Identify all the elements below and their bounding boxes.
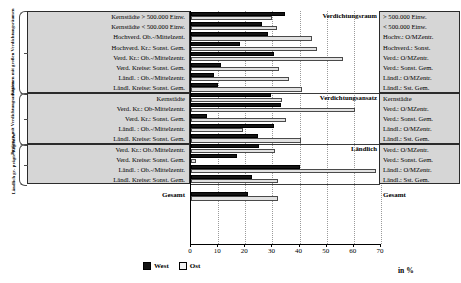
category-label: Verd. Kr.: Ob./Mittelzentr. [28,145,189,155]
bar-ost [191,128,243,132]
bar-row [191,93,381,103]
axis-unit-label: in % [398,266,414,275]
bar-row [191,52,381,62]
bar-ost [191,138,301,142]
bar-west [191,63,221,67]
category-label-short: Ländl.: Sst. Gem. [380,175,459,185]
category-label-group-left: Kernstädte > 500.000 Einw.Kernstädte < 5… [27,11,190,93]
category-label-short: Verd.: O/MZentr. [380,145,459,155]
category-label: Verd. Kr.: Ob.-/Mittelzentr. [28,53,189,63]
bar-row [191,154,381,164]
total-label-right: Gesamt [379,191,460,199]
plot-area: VerdichtungsraumVerdichtungsansatzLändli… [190,11,380,244]
category-label-short: Ländl.: O/MZentr. [380,73,459,83]
bar-row [191,103,381,113]
bar-ost [191,36,312,40]
bar-ost [191,16,272,20]
category-label: Ländl. Kreise: Sonst. Gem. [28,175,189,185]
bar-ost [191,159,196,163]
bar-row [191,11,381,21]
bar-west [191,144,259,148]
bar-west [191,73,214,77]
category-label-short: Verd.: O/MZentr. [380,53,459,63]
legend-swatch-ost [179,262,187,270]
bar-west [191,83,218,87]
bar-ost-total [191,196,278,200]
bar-ost [191,108,355,112]
category-label-short: Verd.: O/MZentr. [380,104,459,114]
category-label: Verd. Kreise: Sonst. Gem. [28,155,189,165]
category-label: Verd. Kr.: Sonst. Gem. [28,114,189,124]
category-label: Hochverd. Kr.: Sonst. Gem. [28,43,189,53]
bar-ost [191,87,302,91]
bar-west [191,52,274,56]
category-label: Kernstädte < 500.000 Einw. [28,22,189,32]
bar-row [191,123,381,133]
category-label: Ländl. : Ob.-/Mittelzentr. [28,73,189,83]
category-label-group-right: KernstädteVerd.: O/MZentr.Verd.: Sonst. … [379,93,460,144]
category-label-short: Verd.: Sonst. Gem. [380,114,459,124]
category-label: Verd. Kr.: Ob-Mittelzentr. [28,104,189,114]
x-axis-tick-label: 30 [259,247,283,255]
bar-row [191,133,381,143]
x-axis-tick-label: 70 [368,247,392,255]
category-label: Ländl. : Ob.-/Mittelzentr. [28,165,189,175]
bar-ost [191,57,343,61]
category-label: Kernstädte > 500.000 Einw. [28,12,189,22]
category-label-group-left: Verd. Kr.: Ob./Mittelzentr.Verd. Kreise:… [27,144,190,185]
bar-ost [191,118,286,122]
total-label-left: Gesamt [27,191,190,199]
bar-west [191,103,281,107]
bar-ost [191,179,278,183]
bar-west [191,12,285,16]
section-divider [191,184,380,185]
x-axis-tick-label: 10 [205,247,229,255]
category-label-short: Hochv.: O/MZentr. [380,32,459,42]
bar-row [191,174,381,184]
category-label-short: Verd.: Sonst. Gem. [380,63,459,73]
group-bracket-label: Ländlich ge- prägte Regionen [0,144,26,185]
x-axis-tick-label: 0 [178,247,202,255]
category-label-group-left: KernstädteVerd. Kr.: Ob-Mittelzentr.Verd… [27,93,190,144]
category-label-short: < 500.000 Einw. [380,22,459,32]
category-label: Ländl. : Ob.-/Mittelzentr. [28,124,189,134]
category-label-short: Kernstädte [380,94,459,104]
bar-ost [191,149,275,153]
category-label: Hochverd. Ob.-/Mittelzent. [28,32,189,42]
bar-ost [191,169,376,173]
category-label: Verd. Kreise: Sonst. Gem. [28,63,189,73]
bar-row [191,164,381,174]
legend: WestOst [143,262,207,270]
bar-row [191,21,381,31]
x-axis-tick-label: 50 [314,247,338,255]
bar-row [191,72,381,82]
category-label-short: Ländl.: O/MZentr. [380,165,459,175]
category-label: Kernstädte [28,94,189,104]
legend-label-west: West [154,262,169,270]
category-label-short: Hochverd.: Sonst. [380,43,459,53]
bar-west [191,114,207,118]
x-axis [190,244,380,245]
bar-row [191,82,381,92]
bar-row-total [191,191,381,201]
bar-ost [191,77,289,81]
bar-row [191,62,381,72]
bar-ost [191,67,279,71]
bar-west [191,124,274,128]
bar-ost [191,47,317,51]
category-label-short: Ländl.: O/MZentr. [380,124,459,134]
x-axis-tick-label: 20 [232,247,256,255]
legend-label-ost: Ost [190,262,201,270]
bar-row [191,31,381,41]
bar-ost [191,98,282,102]
legend-swatch-west [143,262,151,270]
group-bracket-text: Ländlich ge- prägte Regionen [10,134,16,195]
bar-west-total [191,192,248,196]
bar-west [191,22,262,26]
bar-west [191,134,258,138]
bar-row [191,144,381,154]
x-axis-tick-label: 40 [287,247,311,255]
category-label-group-right: > 500.000 Einw.< 500.000 Einw.Hochv.: O/… [379,11,460,93]
category-label-short: Verd.: Sonst. Gem. [380,155,459,165]
category-label-short: > 500.000 Einw. [380,12,459,22]
